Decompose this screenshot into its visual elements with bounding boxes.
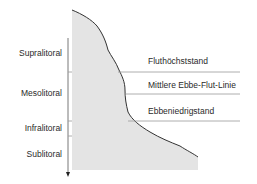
zone-label-mesolitoral: Mesolitoral [21,88,62,98]
axis-arrow-down-icon [66,172,70,177]
zone-label-infralitoral: Infralitoral [25,123,62,133]
level-label-ebbeniedrigstand: Ebbeniedrigstand [148,106,214,116]
level-label-mittlere-ebbe-flut: Mittlere Ebbe-Flut-Linie [148,80,236,90]
zone-label-supralitoral: Supralitoral [19,48,62,58]
level-label-fluthoechststand: Fluthöchststand [148,56,208,66]
littoral-zonation-diagram: Supralitoral Mesolitoral Infralitoral Su… [0,0,257,184]
zone-label-sublitoral: Sublitoral [27,149,63,159]
